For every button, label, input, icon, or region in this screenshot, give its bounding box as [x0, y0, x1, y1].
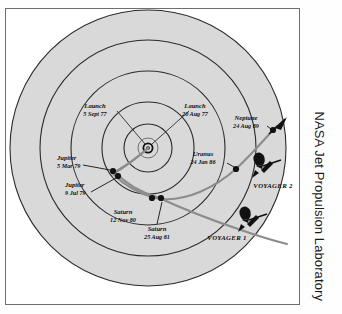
marker-jupiter-voyager-1 — [110, 168, 116, 174]
marker-saturn-voyager-1 — [149, 195, 155, 201]
label-jupiter-voyager-2-date: 9 Jul 79 — [65, 189, 86, 196]
marker-saturn-voyager-2 — [158, 195, 164, 201]
label-jupiter-voyager-1-date: 5 Mar 79 — [57, 162, 80, 169]
label-neptune-voyager-2-date: 24 Aug 89 — [232, 122, 259, 129]
label-uranus-voyager-2-date: 24 Jan 86 — [189, 158, 216, 165]
label-voyager-1: VOYAGER 1 — [207, 234, 246, 241]
label-uranus-voyager-2-name: Uranus — [193, 150, 214, 157]
label-saturn-voyager-2-name: Saturn — [148, 225, 167, 232]
marker-neptune-voyager-2 — [270, 127, 276, 133]
credit-nasa-jpl: NASA Jet Propulsion Laboratory — [300, 8, 340, 305]
label-saturn-voyager-1-name: Saturn — [114, 208, 133, 215]
label-launch-voyager-2-date: 5 Sept 77 — [83, 110, 107, 117]
label-jupiter-voyager-2-name: Jupiter — [64, 181, 85, 188]
label-saturn-voyager-2-date: 25 Aug 81 — [143, 233, 170, 240]
label-launch-voyager-2-name: Launch — [83, 102, 106, 109]
figure-root: Launch 5 Sept 77 Launch 20 Aug 77 Jupite… — [0, 0, 342, 314]
label-launch-voyager-1-name: Launch — [183, 102, 206, 109]
label-saturn-voyager-1-date: 12 Nov 80 — [110, 216, 136, 223]
label-neptune-voyager-2-name: Neptune — [233, 114, 257, 121]
label-voyager-2: VOYAGER 2 — [253, 182, 293, 189]
label-jupiter-voyager-1-name: Jupiter — [56, 154, 77, 161]
label-launch-voyager-1-date: 20 Aug 77 — [181, 110, 209, 117]
voyager-trajectory-diagram: Launch 5 Sept 77 Launch 20 Aug 77 Jupite… — [5, 8, 300, 305]
